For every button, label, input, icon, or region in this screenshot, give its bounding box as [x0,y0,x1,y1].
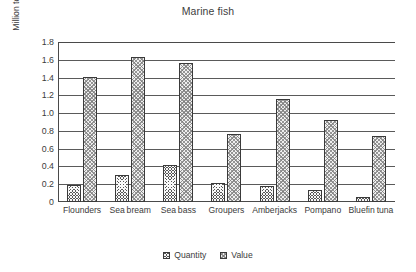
bar-group [58,42,106,202]
x-axis-label: Groupers [202,205,250,216]
y-tick-label: 1.2 [24,90,54,100]
chart-container: Marine fish Million tonnes, billion US d… [0,0,416,272]
legend-item-value[interactable]: Value [220,250,252,260]
y-tick-label: 1.6 [24,55,54,65]
y-tick-label: 0.2 [24,179,54,189]
y-axis-title: Million tonnes, billion US dollars [9,0,23,50]
legend-item-quantity[interactable]: Quantity [163,250,206,260]
bar-quantity-amberjacks [260,186,274,202]
bar-value-amberjacks [276,99,290,202]
bar-value-flounders [83,77,97,202]
bar-value-sea-bream [131,57,145,202]
bar-quantity-bluefin-tuna [356,197,370,202]
chart-legend: QuantityValue [0,250,416,260]
bar-value-pompano [324,120,338,202]
bar-value-bluefin-tuna [372,136,386,202]
plot-area [58,42,395,202]
bar-group [299,42,347,202]
bar-value-groupers [227,134,241,202]
y-tick-label: 0.8 [24,126,54,136]
x-axis-label: Sea bass [154,205,202,216]
bar-groups [58,42,395,202]
bar-quantity-pompano [308,190,322,202]
legend-label: Value [231,250,252,260]
bar-group [106,42,154,202]
x-axis-label: Sea bream [106,205,154,216]
x-axis-label: Flounders [58,205,106,216]
x-axis-label: Bluefin tuna [347,205,395,216]
x-axis-label: Amberjacks [251,205,299,216]
bar-group [347,42,395,202]
legend-swatch-value [220,252,227,259]
chart-title: Marine fish [0,5,416,17]
bar-quantity-sea-bass [163,165,177,202]
y-tick-label: 0.6 [24,144,54,154]
legend-label: Quantity [174,250,206,260]
bar-quantity-groupers [211,183,225,202]
bar-group [251,42,299,202]
y-tick-label: 1.4 [24,73,54,83]
bar-group [202,42,250,202]
bar-value-sea-bass [179,63,193,202]
bar-quantity-flounders [67,185,81,202]
y-tick-label: 0 [24,197,54,207]
y-tick-label: 1.0 [24,108,54,118]
bar-group [154,42,202,202]
x-axis-label: Pompano [299,205,347,216]
x-axis-category-labels: FloundersSea breamSea bassGroupersAmberj… [58,205,395,216]
bar-quantity-sea-bream [115,175,129,202]
y-tick-label: 1.8 [24,37,54,47]
y-tick-label: 0.4 [24,161,54,171]
legend-swatch-quantity [163,252,170,259]
